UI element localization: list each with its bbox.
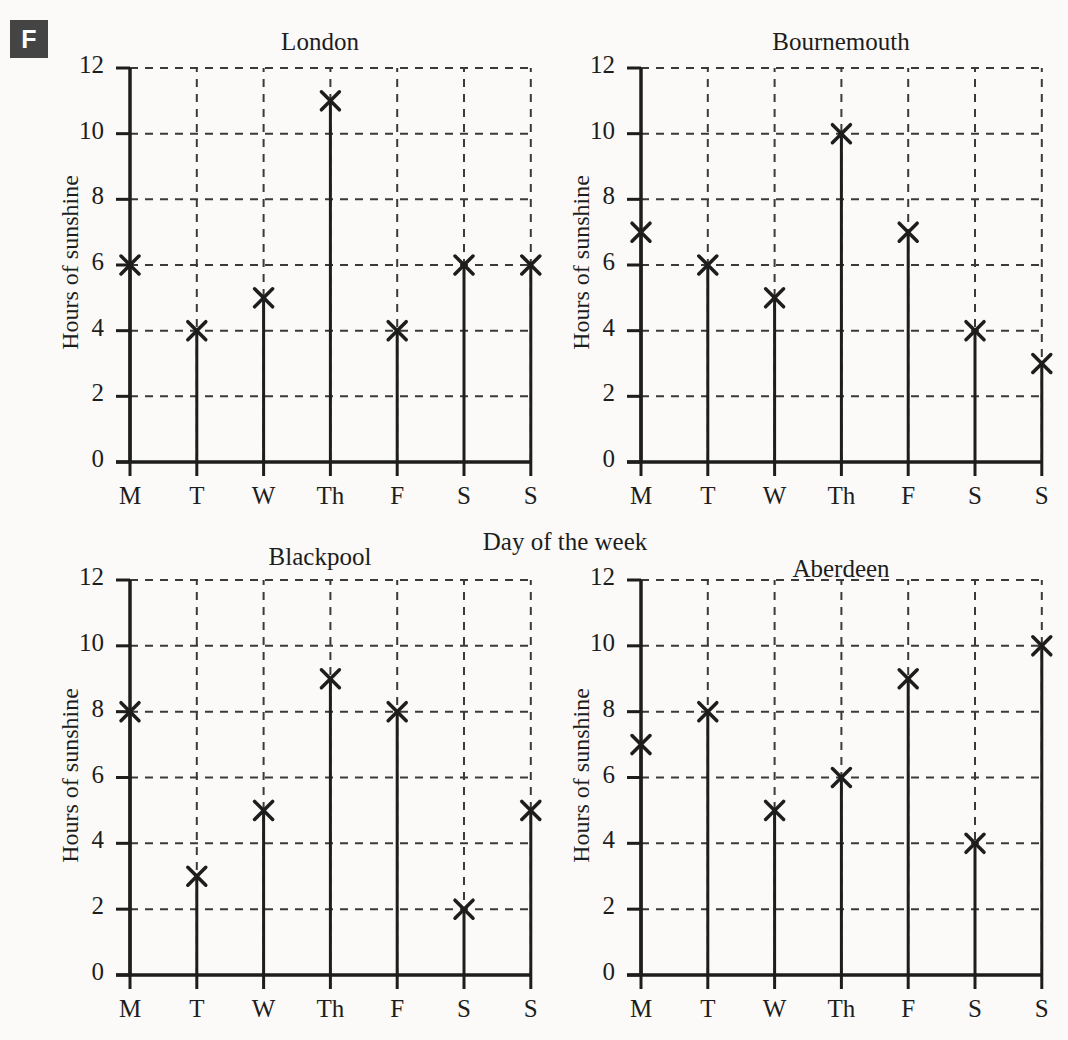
chart-title-1: Bournemouth (681, 28, 1001, 56)
y-tick-label-3-4: 4 (551, 826, 615, 854)
x-tick-label-0-6: S (496, 482, 566, 510)
y-tick-label-2-8: 8 (40, 695, 104, 723)
x-tick-label-2-0: M (95, 995, 165, 1023)
x-tick-label-3-5: S (940, 995, 1010, 1023)
chart-panel-3 (627, 580, 1051, 989)
y-tick-label-0-8: 8 (40, 182, 104, 210)
y-tick-label-1-4: 4 (551, 314, 615, 342)
x-tick-label-2-1: T (162, 995, 232, 1023)
y-tick-label-1-8: 8 (551, 182, 615, 210)
y-tick-label-0-4: 4 (40, 314, 104, 342)
y-tick-label-2-6: 6 (40, 761, 104, 789)
chart-title-2: Blackpool (160, 543, 480, 571)
chart-panel-2 (116, 580, 540, 989)
x-tick-label-1-3: Th (806, 482, 876, 510)
y-tick-label-3-8: 8 (551, 695, 615, 723)
x-tick-label-1-0: M (606, 482, 676, 510)
y-tick-label-1-0: 0 (551, 445, 615, 473)
y-tick-label-3-2: 2 (551, 892, 615, 920)
y-tick-label-3-6: 6 (551, 761, 615, 789)
y-tick-label-0-2: 2 (40, 379, 104, 407)
x-tick-label-1-1: T (673, 482, 743, 510)
x-tick-label-1-6: S (1007, 482, 1068, 510)
figure-root: F Day of the week LondonHours of sunshin… (0, 0, 1068, 1040)
x-tick-label-0-2: W (229, 482, 299, 510)
x-tick-label-2-4: F (362, 995, 432, 1023)
x-tick-label-0-3: Th (295, 482, 365, 510)
x-tick-label-3-1: T (673, 995, 743, 1023)
y-tick-label-1-10: 10 (551, 117, 615, 145)
y-tick-label-2-12: 12 (40, 563, 104, 591)
y-tick-label-2-2: 2 (40, 892, 104, 920)
x-tick-label-0-4: F (362, 482, 432, 510)
chart-panel-1 (627, 68, 1051, 476)
y-tick-label-1-12: 12 (551, 51, 615, 79)
y-tick-label-0-0: 0 (40, 445, 104, 473)
x-tick-label-1-5: S (940, 482, 1010, 510)
x-tick-label-3-2: W (740, 995, 810, 1023)
x-tick-label-1-2: W (740, 482, 810, 510)
x-tick-label-3-3: Th (806, 995, 876, 1023)
x-tick-label-2-2: W (229, 995, 299, 1023)
y-tick-label-3-12: 12 (551, 563, 615, 591)
charts-svg (0, 0, 1068, 1040)
x-tick-label-3-6: S (1007, 995, 1068, 1023)
x-tick-label-3-4: F (873, 995, 943, 1023)
x-tick-label-0-1: T (162, 482, 232, 510)
chart-title-3: Aberdeen (681, 555, 1001, 583)
x-tick-label-0-5: S (429, 482, 499, 510)
x-tick-label-2-3: Th (295, 995, 365, 1023)
y-tick-label-2-0: 0 (40, 958, 104, 986)
y-tick-label-3-0: 0 (551, 958, 615, 986)
y-tick-label-2-4: 4 (40, 826, 104, 854)
x-tick-label-1-4: F (873, 482, 943, 510)
chart-title-0: London (160, 28, 480, 56)
x-tick-label-0-0: M (95, 482, 165, 510)
x-tick-label-2-5: S (429, 995, 499, 1023)
y-tick-label-1-2: 2 (551, 379, 615, 407)
x-tick-label-2-6: S (496, 995, 566, 1023)
y-tick-label-2-10: 10 (40, 629, 104, 657)
chart-panel-0 (116, 68, 540, 476)
x-tick-label-3-0: M (606, 995, 676, 1023)
y-tick-label-0-12: 12 (40, 51, 104, 79)
y-tick-label-1-6: 6 (551, 248, 615, 276)
y-tick-label-0-6: 6 (40, 248, 104, 276)
y-tick-label-3-10: 10 (551, 629, 615, 657)
y-tick-label-0-10: 10 (40, 117, 104, 145)
